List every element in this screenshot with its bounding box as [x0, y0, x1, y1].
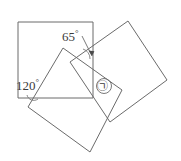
angle-label-65: 65° — [62, 29, 79, 43]
degree-symbol-120: ° — [36, 77, 40, 87]
degree-symbol-65: ° — [75, 28, 79, 38]
right-tilted-square — [70, 21, 167, 122]
left-tilted-square — [28, 48, 122, 152]
unknown-angle-label: ㉠ — [97, 81, 108, 92]
angle-label-65-value: 65 — [62, 29, 75, 44]
angle-label-120: 120° — [16, 78, 39, 92]
angle-label-120-value: 120 — [16, 78, 36, 93]
geometry-figure: 65° 120° ㉠ — [0, 0, 181, 161]
